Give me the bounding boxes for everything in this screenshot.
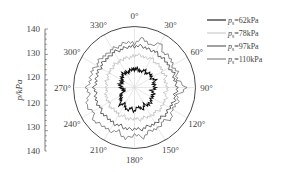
legend-item: ps=78kPa: [207, 29, 259, 39]
angle-label-330: 330°: [90, 20, 108, 30]
angle-label-270: 270°: [54, 83, 72, 93]
legend-item: ps=110kPa: [207, 55, 263, 65]
radial-axis: 140 130 120 120 130 140 p/kPa: [14, 24, 48, 156]
legend-label: ps=110kPa: [227, 55, 263, 65]
legend-item: ps=62kPa: [207, 16, 259, 26]
angle-label-300: 300°: [64, 47, 82, 57]
legend: ps=62kPaps=78kPaps=97kPaps=110kPa: [207, 16, 263, 65]
angle-label-120: 120°: [188, 119, 206, 129]
tick-label-upper-120: 120: [27, 72, 41, 82]
polar-chart: 140 130 120 120 130 140 p/kPa 0°30°60°90…: [0, 0, 283, 172]
radial-ticks: [45, 29, 48, 151]
spoke-120: [135, 88, 188, 119]
legend-label: ps=62kPa: [227, 16, 259, 26]
spoke-60: [135, 57, 188, 88]
angle-label-150: 150°: [162, 145, 180, 155]
tick-label-lower-130: 130: [27, 122, 41, 132]
tick-label-upper-130: 130: [27, 48, 41, 58]
radial-axis-title: p/kPa: [14, 79, 24, 101]
spoke-210: [104, 88, 135, 141]
legend-label: ps=78kPa: [227, 29, 259, 39]
tick-label-lower-140: 140: [27, 146, 41, 156]
angle-label-30: 30°: [164, 20, 177, 30]
tick-label-lower-120: 120: [27, 98, 41, 108]
angle-label-180: 180°: [126, 155, 144, 165]
angle-label-210: 210°: [90, 145, 108, 155]
legend-label: ps=97kPa: [227, 42, 259, 52]
legend-item: ps=97kPa: [207, 42, 259, 52]
angle-label-240: 240°: [64, 119, 82, 129]
spoke-150: [135, 88, 166, 141]
tick-label-upper-140: 140: [27, 24, 41, 34]
angle-label-60: 60°: [191, 47, 204, 57]
angle-label-90: 90°: [200, 83, 213, 93]
angle-label-0: 0°: [130, 11, 139, 21]
